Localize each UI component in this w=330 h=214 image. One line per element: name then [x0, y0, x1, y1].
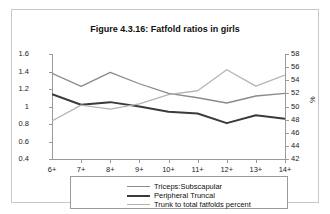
y-axis-right-tick: [286, 67, 289, 68]
y-axis-right-tick: [286, 93, 289, 94]
y-axis-left-tick-label: 1: [25, 102, 29, 111]
x-axis-tick-label: 11+: [187, 165, 209, 174]
x-axis-tick: [110, 160, 111, 163]
series-line: [52, 72, 285, 103]
y-axis-right-tick-label: 52: [291, 88, 299, 97]
legend-line-swatch: [127, 204, 150, 205]
y-axis-right-tick-label: 54: [291, 75, 299, 84]
legend-line-swatch: [127, 195, 150, 197]
series-lines: [52, 54, 285, 159]
x-axis-tick: [81, 160, 82, 163]
x-axis-tick: [285, 160, 286, 163]
y-axis-left-tick: [49, 159, 52, 160]
y-axis-right-tick-label: 56: [291, 62, 299, 71]
y-axis-right-tick: [286, 120, 289, 121]
legend-item[interactable]: Trunk to total fatfolds percent: [127, 199, 251, 210]
y-axis-right-tick-label: 58: [291, 49, 299, 58]
x-axis-tick: [256, 160, 257, 163]
chart-title: Figure 4.3.16: Fatfold ratios in girls: [12, 24, 318, 34]
x-axis-tick-label: 10+: [158, 165, 180, 174]
y-axis-left-tick-label: 0.4: [19, 154, 29, 163]
x-axis-tick-label: 7+: [70, 165, 92, 174]
y-axis-left-tick-label: 1.6: [19, 49, 29, 58]
series-line: [52, 94, 285, 123]
x-axis-tick: [227, 160, 228, 163]
x-axis-tick-label: 13+: [245, 165, 267, 174]
y-axis-right-tick-label: 44: [291, 141, 299, 150]
x-axis-tick-label: 9+: [128, 165, 150, 174]
y-axis-right-tick-label: 46: [291, 128, 299, 137]
y-axis-right-tick: [286, 159, 289, 160]
y-axis-right-tick: [286, 80, 289, 81]
y-axis-right-tick: [286, 107, 289, 108]
x-axis-tick-label: 12+: [216, 165, 238, 174]
y-axis-right-tick: [286, 54, 289, 55]
y-axis-left-tick-label: 0.8: [19, 119, 29, 128]
y-axis-right-tick: [286, 133, 289, 134]
y-axis-right-tick: [286, 146, 289, 147]
y-axis-left-tick-label: 1.2: [19, 84, 29, 93]
x-axis-tick: [198, 160, 199, 163]
x-axis-tick-label: 8+: [99, 165, 121, 174]
chart-legend: Triceps:SubscapularPeripheral TruncalTru…: [70, 176, 288, 209]
y-axis-right-tick-label: 42: [291, 154, 299, 163]
legend-line-swatch: [127, 186, 150, 187]
plot-area: [52, 54, 285, 159]
series-line: [52, 70, 285, 121]
chart-container: Figure 4.3.16: Fatfold ratios in girls %…: [11, 9, 319, 203]
y-axis-right-title: %: [308, 96, 317, 103]
x-axis-tick-label: 14+: [274, 165, 296, 174]
y-axis-left-tick-label: 0.6: [19, 137, 29, 146]
y-axis-right-tick-label: 50: [291, 102, 299, 111]
legend-item-label: Trunk to total fatfolds percent: [154, 200, 251, 209]
y-axis-right-tick-label: 48: [291, 115, 299, 124]
x-axis-tick-label: 6+: [41, 165, 63, 174]
y-axis-left-tick-label: 1.4: [19, 67, 29, 76]
x-axis-tick: [139, 160, 140, 163]
x-axis-tick: [169, 160, 170, 163]
